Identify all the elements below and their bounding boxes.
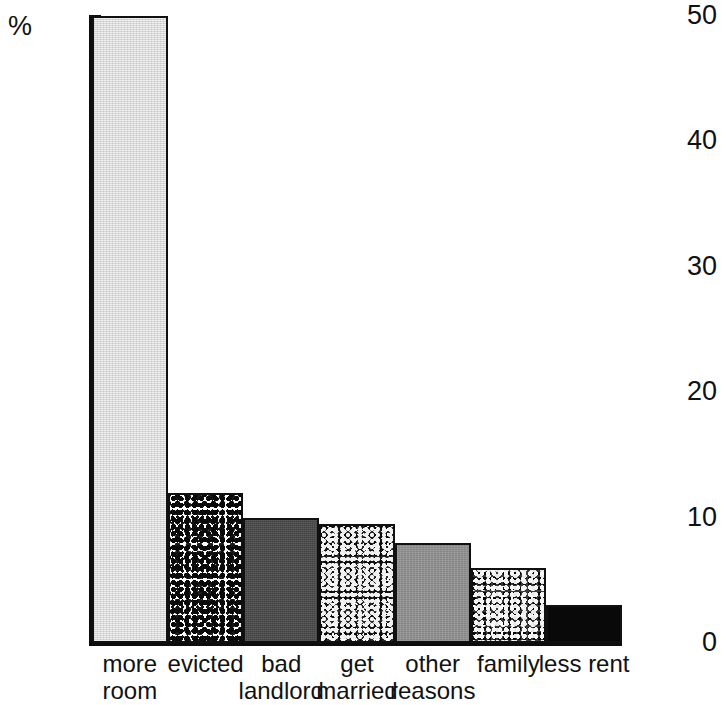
- bar: [319, 524, 395, 643]
- x-axis-label-line1: less rent: [539, 650, 630, 677]
- bar: [243, 518, 319, 643]
- y-axis-unit-label: %: [8, 13, 32, 40]
- y-axis-tick-label: 20: [648, 378, 726, 405]
- y-axis-tick-label: 0: [648, 629, 726, 656]
- y-axis-tick-label: 30: [648, 253, 726, 280]
- y-axis-tick-label: 40: [648, 127, 726, 154]
- bar-fill: [94, 18, 166, 641]
- x-axis-label-line1: bad: [261, 650, 301, 677]
- x-axis-label-line2: reasons: [378, 677, 487, 704]
- bar-fill: [321, 526, 393, 641]
- y-axis-tick-label: 50: [648, 2, 726, 29]
- bar-fill: [397, 545, 469, 641]
- bar: [546, 605, 622, 643]
- x-axis-label-line1: other: [405, 650, 460, 677]
- x-axis-label-line2: room: [75, 677, 184, 704]
- bar: [168, 493, 243, 643]
- bar-fill: [473, 570, 544, 641]
- bar-chart: % 01020304050 moreroomevictedbadlandlord…: [0, 0, 726, 705]
- y-axis-tick-label: 10: [648, 504, 726, 531]
- bar: [92, 16, 168, 643]
- x-axis-label: less rent: [530, 650, 639, 677]
- x-axis-label-line1: get: [340, 650, 373, 677]
- x-axis-line: [89, 643, 622, 646]
- bar-fill: [245, 520, 317, 641]
- bar: [471, 568, 546, 643]
- bar-fill: [548, 607, 620, 641]
- bar: [395, 543, 471, 643]
- plot-area: [92, 16, 622, 643]
- bar-fill: [170, 495, 241, 641]
- x-axis-label-line1: more: [103, 650, 158, 677]
- x-axis-labels: moreroomevictedbadlandlordgetmarriedothe…: [92, 650, 622, 705]
